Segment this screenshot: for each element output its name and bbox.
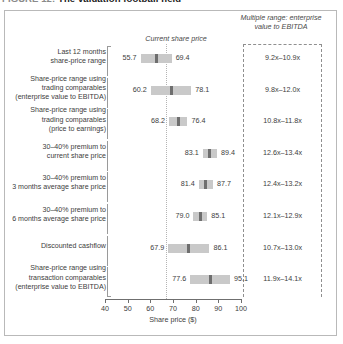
chart-row: 30–40% premium to6 months average share … [0, 204, 343, 234]
range-low-value: 68.2 [123, 116, 165, 125]
range-bar-marker [177, 117, 180, 126]
row-label: Last 12 monthsshare-price range [2, 48, 106, 66]
multiple-range-value: 12.6x–13.4x [243, 148, 322, 157]
row-label: Share-price range usingtrading comparabl… [2, 75, 106, 103]
multiple-range-value: 9.8x–12.0x [243, 85, 322, 94]
range-high-value: 76.4 [192, 116, 206, 125]
x-axis-tick-label: 60 [146, 304, 154, 313]
range-bar-marker [199, 212, 202, 221]
chart-row: 30–40% premium to3 months average share … [0, 172, 343, 202]
row-label: 30–40% premium to3 months average share … [2, 174, 106, 192]
range-bar-marker [209, 275, 212, 284]
row-label: Discounted cashflow [2, 242, 106, 251]
range-high-value: 78.1 [195, 85, 209, 94]
row-bracket [107, 267, 111, 297]
x-axis-tick-label: 70 [169, 304, 177, 313]
range-high-value: 85.1 [211, 211, 225, 220]
x-axis-tick [128, 299, 129, 303]
x-axis-tick [105, 299, 106, 303]
chart-row: Discounted cashflow67.986.110.7x–13.0x [0, 236, 343, 266]
x-axis-label: Share price ($) [105, 315, 241, 324]
range-bar [169, 117, 188, 126]
x-axis-tick [241, 299, 242, 303]
row-bracket [107, 109, 111, 139]
chart-row: 30–40% premium tocurrent share price83.1… [0, 141, 343, 171]
range-bar [203, 149, 217, 158]
x-axis-tick [173, 299, 174, 303]
row-bracket [107, 172, 111, 202]
range-bar [190, 275, 230, 284]
range-bar [168, 244, 209, 253]
multiple-range-value: 10.7x–13.0x [243, 243, 322, 252]
range-bar-marker [155, 54, 158, 63]
x-axis-tick-label: 100 [235, 304, 247, 313]
range-bar [151, 86, 192, 95]
x-axis-tick-label: 80 [192, 304, 200, 313]
row-bracket [107, 236, 111, 266]
row-bracket [107, 141, 111, 171]
multiple-range-value: 12.4x–13.2x [243, 179, 322, 188]
range-bar-marker [208, 149, 211, 158]
row-label: 30–40% premium to6 months average share … [2, 206, 106, 224]
chart-row: Share-price range usingtransaction compa… [0, 267, 343, 297]
bar-rows: Last 12 monthsshare-price range55.769.49… [0, 0, 343, 344]
multiple-range-value: 9.2x–10.9x [243, 53, 322, 62]
range-bar-marker [187, 244, 190, 253]
range-low-value: 83.1 [157, 148, 199, 157]
range-high-value: 87.7 [217, 179, 231, 188]
range-bar [141, 54, 172, 63]
chart-row: Share-price range usingtrading comparabl… [0, 78, 343, 108]
multiple-range-value: 11.9x–14.1x [243, 274, 322, 283]
multiple-range-value: 10.8x–11.8x [243, 116, 322, 125]
multiple-range-value: 12.1x–12.9x [243, 211, 322, 220]
range-low-value: 67.9 [122, 243, 164, 252]
range-low-value: 81.4 [153, 179, 195, 188]
chart-row: Share-price range usingtrading comparabl… [0, 109, 343, 139]
x-axis-tick-label: 40 [101, 304, 109, 313]
chart-row: Last 12 monthsshare-price range55.769.49… [0, 46, 343, 76]
range-high-value: 89.4 [221, 148, 235, 157]
row-bracket [107, 204, 111, 234]
x-axis-tick-label: 90 [214, 304, 222, 313]
x-axis-tick-label: 50 [124, 304, 132, 313]
x-axis-tick [150, 299, 151, 303]
x-axis-tick [218, 299, 219, 303]
range-high-value: 69.4 [176, 53, 190, 62]
range-bar [193, 212, 207, 221]
range-low-value: 60.2 [105, 85, 147, 94]
range-bar-marker [204, 180, 207, 189]
range-high-value: 86.1 [213, 243, 227, 252]
range-low-value: 79.0 [147, 211, 189, 220]
row-label: Share-price range usingtransaction compa… [2, 264, 106, 292]
figure-container: FIGURE 12: The valuation football field … [0, 0, 343, 344]
range-bar [199, 180, 213, 189]
range-low-value: 77.6 [144, 274, 186, 283]
x-axis-tick [196, 299, 197, 303]
range-low-value: 55.7 [95, 53, 137, 62]
range-bar-marker [170, 86, 173, 95]
row-label: Share-price range usingtrading comparabl… [2, 106, 106, 134]
row-label: 30–40% premium tocurrent share price [2, 143, 106, 161]
